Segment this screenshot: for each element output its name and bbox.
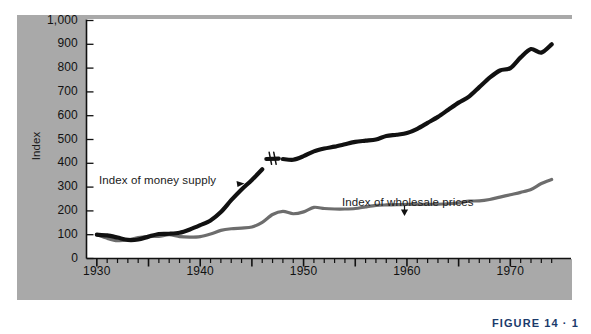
- figure-caption: FIGURE 14 · 1: [492, 317, 579, 329]
- figure-container: Index 01002003004005006007008009001,000 …: [0, 0, 591, 334]
- chart-plot: [0, 0, 591, 334]
- series-label-wholesale-prices: Index of wholesale prices: [342, 196, 474, 208]
- series-label-money-supply: Index of money supply: [99, 174, 216, 186]
- wholesale-prices-label-arrow: [401, 210, 408, 217]
- series-line-wholesale-prices: [97, 179, 552, 240]
- series-line-money-supply-post-break: [283, 44, 552, 160]
